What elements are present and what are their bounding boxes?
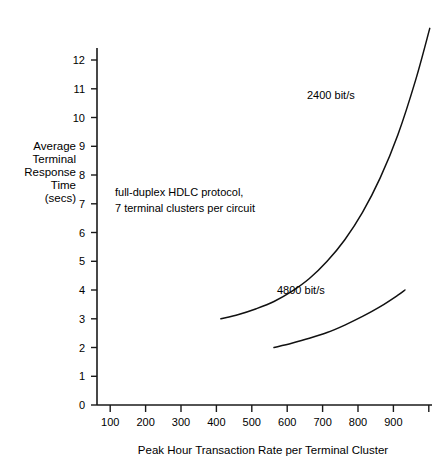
x-tick-label: 900 [384,416,402,428]
annotation-line: 7 terminal clusters per circuit [115,202,255,214]
y-tick-label: 4 [79,284,85,296]
y-tick-label: 11 [74,83,85,95]
x-tick-label: 600 [278,416,296,428]
chart-canvas: 0 1 2 3 4 5 6 7 8 9 10 11 12 [0,0,444,473]
x-axis-ticks [110,405,429,412]
series-label-2400: 2400 bit/s [307,89,355,101]
series-line-4800 [274,290,405,348]
y-tick-label: 3 [79,313,85,325]
x-tick-label: 100 [101,416,119,428]
chart-figure: 0 1 2 3 4 5 6 7 8 9 10 11 12 [0,0,444,473]
y-axis-title-line: Terminal [33,153,76,165]
x-axis-tick-labels: 100 200 300 400 500 600 700 800 900 [101,416,403,428]
y-tick-label: 12 [73,54,85,66]
x-tick-label: 700 [313,416,331,428]
series-line-2400 [221,28,430,318]
x-tick-label: 200 [136,416,154,428]
y-tick-label: 5 [79,255,85,267]
x-tick-label: 500 [243,416,261,428]
y-tick-label: 7 [79,198,85,210]
y-tick-label: 8 [79,169,85,181]
x-axis-title: Peak Hour Transaction Rate per Terminal … [138,444,389,456]
annotation-line: full-duplex HDLC protocol, [115,186,243,198]
y-tick-label: 6 [79,227,85,239]
series-label-4800: 4800 bit/s [277,284,325,296]
y-axis-title-line: Response [24,166,76,178]
x-tick-label: 800 [349,416,367,428]
chart-annotation: full-duplex HDLC protocol, 7 terminal cl… [115,186,255,214]
y-tick-label: 9 [79,140,85,152]
y-axis-title-line: Time [51,179,76,191]
y-axis-title-line: (secs) [45,192,76,204]
x-tick-label: 300 [172,416,190,428]
y-tick-label: 2 [79,342,85,354]
y-axis-tick-labels: 0 1 2 3 4 5 6 7 8 9 10 11 12 [73,54,85,411]
y-tick-label: 1 [79,370,85,382]
y-axis-title: Average Terminal Response Time (secs) [24,140,76,204]
y-tick-label: 0 [79,399,85,411]
y-tick-label: 10 [73,112,85,124]
y-axis-title-line: Average [33,140,76,152]
y-axis-ticks [91,60,97,405]
x-tick-label: 400 [207,416,225,428]
